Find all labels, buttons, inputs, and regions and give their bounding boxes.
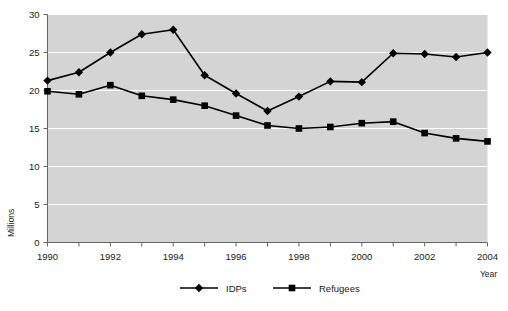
data-point	[296, 125, 303, 132]
x-tick-label: 1996	[226, 251, 247, 262]
x-tick-label: 2004	[477, 251, 498, 262]
x-tick-label: 2002	[414, 251, 435, 262]
y-axis-title: Millions	[6, 209, 16, 237]
data-point	[201, 102, 208, 109]
y-tick-label: 15	[29, 123, 40, 134]
data-point	[107, 82, 114, 89]
legend-label: IDPs	[226, 283, 247, 294]
data-point	[44, 88, 51, 95]
data-point	[484, 138, 491, 145]
data-point	[327, 124, 334, 131]
data-point	[358, 120, 365, 127]
data-point	[453, 135, 460, 142]
y-tick-label: 5	[34, 199, 39, 210]
y-tick-label: 0	[34, 237, 39, 248]
x-tick-label: 1998	[288, 251, 309, 262]
data-point	[390, 118, 397, 125]
y-tick-label: 20	[29, 85, 40, 96]
data-point	[233, 112, 240, 119]
chart-container: 051015202530 199019921994199619982000200…	[0, 0, 508, 311]
data-point	[264, 122, 271, 129]
y-tick-label: 10	[29, 161, 40, 172]
line-chart: 051015202530 199019921994199619982000200…	[0, 0, 508, 311]
data-point	[421, 130, 428, 137]
data-point	[170, 96, 177, 103]
x-tick-label: 1990	[37, 251, 58, 262]
x-tick-label: 1994	[163, 251, 184, 262]
y-tick-label: 25	[29, 47, 40, 58]
legend-label: Refugees	[319, 283, 360, 294]
legend-marker-square	[289, 285, 296, 292]
data-point	[76, 91, 83, 98]
x-tick-label: 1992	[100, 251, 121, 262]
x-axis-title: Year	[480, 269, 497, 279]
data-point	[138, 93, 145, 100]
y-tick-label: 30	[29, 9, 40, 20]
x-tick-label: 2000	[351, 251, 372, 262]
